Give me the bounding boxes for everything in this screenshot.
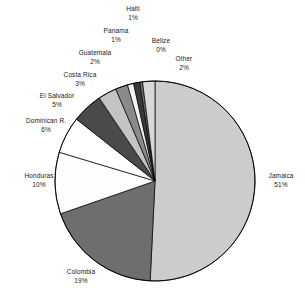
pie-label-guatemala-value: 2% [64,58,126,67]
pie-label-costa-rica-name: Costa Rica [49,71,111,80]
pie-slice-jamaica [150,81,255,281]
pie-label-colombia-name: Colombia [50,268,112,277]
pie-label-honduras-value: 10% [8,181,70,190]
pie-label-colombia-value: 19% [50,277,112,286]
pie-label-jamaica-value: 51% [258,181,304,190]
pie-label-el-salvador-value: 5% [23,101,91,110]
pie-label-belize-name: Belize [137,37,185,46]
pie-slice-group [55,81,255,281]
pie-label-el-salvador-name: El Salvador [23,92,91,101]
pie-label-belize-value: 0% [137,46,185,55]
pie-label-dominican-r-name: Dominican R. [10,117,82,126]
pie-label-colombia: Colombia 19% [50,268,112,285]
pie-label-haiti: Haiti 1% [103,5,163,22]
pie-label-other: Other 2% [160,55,208,72]
pie-label-belize: Belize 0% [137,37,185,54]
pie-chart: Haiti 1% Panama 1% Belize 0% Guatemala 2… [0,0,305,304]
pie-label-honduras-name: Honduras [8,172,70,181]
pie-label-dominican-r: Dominican R. 6% [10,117,82,134]
pie-label-honduras: Honduras 10% [8,172,70,189]
pie-label-guatemala-name: Guatemala [64,49,126,58]
pie-label-other-name: Other [160,55,208,64]
pie-label-other-value: 2% [160,64,208,73]
pie-label-haiti-name: Haiti [103,5,163,14]
pie-label-guatemala: Guatemala 2% [64,49,126,66]
pie-label-dominican-r-value: 6% [10,126,82,135]
pie-label-jamaica-name: Jamaica [258,172,304,181]
pie-label-panama-name: Panama [86,27,146,36]
pie-label-costa-rica: Costa Rica 3% [49,71,111,88]
pie-label-haiti-value: 1% [103,14,163,23]
pie-label-jamaica: Jamaica 51% [258,172,304,189]
pie-label-costa-rica-value: 3% [49,80,111,89]
pie-label-el-salvador: El Salvador 5% [23,92,91,109]
